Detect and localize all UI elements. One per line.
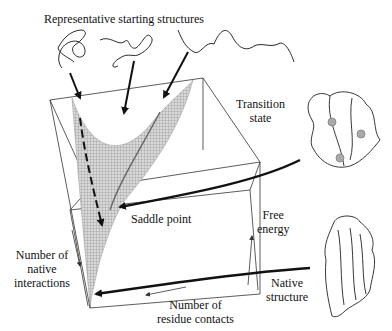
- arrow-residue-contacts: [146, 287, 186, 295]
- label-native-interactions: Number of native interactions: [14, 248, 70, 290]
- native-structure: [325, 216, 375, 317]
- label-starting-structures: Representative starting structures: [44, 12, 204, 26]
- arrow-start-1: [70, 73, 80, 98]
- label-native-interactions-line3: interactions: [14, 276, 70, 290]
- label-free-energy-line2: energy: [257, 222, 289, 236]
- transition-state-structure: [308, 92, 380, 167]
- label-saddle-point: Saddle point: [131, 212, 191, 226]
- label-native-interactions-line1: Number of: [14, 248, 70, 262]
- starting-structures: [58, 30, 294, 68]
- arrow-free-energy: [248, 236, 252, 285]
- label-transition-state-line1: Transition: [236, 97, 285, 111]
- label-native-structure-line1: Native: [266, 276, 308, 290]
- label-residue-contacts: Number of residue contacts: [157, 298, 234, 326]
- arrow-start-2: [124, 61, 134, 113]
- label-residue-contacts-line1: Number of: [157, 298, 234, 312]
- label-transition-state: Transition state: [236, 97, 285, 125]
- label-free-energy-line1: Free: [257, 208, 289, 222]
- label-residue-contacts-line2: residue contacts: [157, 312, 234, 326]
- label-transition-state-line2: state: [236, 111, 285, 125]
- funnel-surface: [72, 80, 193, 305]
- label-native-structure: Native structure: [266, 276, 308, 304]
- label-native-interactions-line2: native: [14, 262, 70, 276]
- label-free-energy: Free energy: [257, 208, 289, 236]
- label-native-structure-line2: structure: [266, 290, 308, 304]
